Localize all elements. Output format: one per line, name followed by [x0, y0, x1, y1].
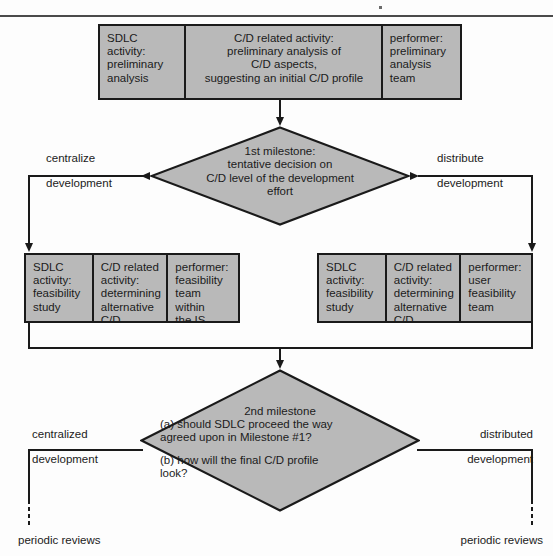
branch-drop-left-2: [28, 449, 30, 500]
cell-cd-activity-preliminary: C/D related activity: preliminary analys…: [184, 26, 381, 98]
cell-performer-preliminary: performer: preliminary analysis team: [381, 26, 460, 98]
process-row-feasibility-distributed: SDLC activity: feasibility study C/D rel…: [317, 253, 533, 323]
label-development-right-1: development: [437, 177, 503, 190]
cell-sdlc-activity-feasibility-left: SDLC activity: feasibility study: [26, 255, 92, 321]
dashed-continuation-right: [531, 500, 533, 527]
cell-sdlc-activity-feasibility-right: SDLC activity: feasibility study: [319, 255, 385, 321]
decision-milestone-1: 1st milestone: tentative decision on C/D…: [150, 126, 410, 226]
label-centralized-2: centralized: [32, 428, 88, 441]
milestone-2-question-a: (a) should SDLC proceed the way agreed u…: [140, 418, 420, 445]
merge-to-milestone2: [279, 347, 281, 361]
branch-line-right-1: [418, 175, 533, 177]
label-centralize-1: centralize: [46, 152, 95, 165]
milestone-1-text: 1st milestone: tentative decision on C/D…: [150, 145, 410, 199]
milestone-2-heading: 2nd milestone: [140, 405, 420, 418]
cell-cd-activity-feasibility-left: C/D related activity: determining altern…: [92, 255, 167, 321]
label-distributed-2: distributed: [413, 428, 533, 441]
label-development-right-2: development: [413, 453, 533, 466]
outcome-left-periodic-reviews: periodic reviews: [18, 534, 100, 547]
arrowhead-into-milestone2: [276, 360, 284, 369]
branch-line-left-1: [28, 175, 150, 177]
process-row-feasibility-centralized: SDLC activity: feasibility study C/D rel…: [24, 253, 240, 323]
arrowhead-into-left-feasibility: [25, 243, 33, 252]
branch-line-left-2: [28, 449, 143, 451]
cell-cd-activity-feasibility-right: C/D related activity: determining altern…: [385, 255, 460, 321]
merge-drop-left: [28, 323, 30, 349]
milestone-2-question-b: (b) how will the final C/D profile look?: [140, 454, 420, 481]
decision-milestone-2: 2nd milestone (a) should SDLC proceed th…: [140, 369, 420, 512]
process-row-preliminary-analysis: SDLC activity: preliminary analysis C/D …: [98, 24, 462, 100]
label-distribute-1: distribute: [437, 152, 484, 165]
outcome-right-periodic-reviews: periodic reviews: [423, 534, 543, 547]
top-divider-rule: [0, 15, 553, 17]
page-speck-mark: [379, 6, 382, 9]
branch-drop-right-2: [531, 449, 533, 500]
label-development-left-1: development: [46, 177, 112, 190]
arrowhead-into-right-feasibility: [528, 243, 536, 252]
flowchart-canvas: SDLC activity: preliminary analysis C/D …: [0, 0, 553, 556]
branch-drop-right-1: [531, 175, 533, 245]
branch-line-right-2: [417, 449, 533, 451]
merge-drop-right: [531, 323, 533, 349]
cell-sdlc-activity-preliminary: SDLC activity: preliminary analysis: [100, 26, 184, 98]
dashed-continuation-left: [28, 500, 30, 527]
branch-drop-left-1: [28, 175, 30, 245]
cell-performer-feasibility-left: performer: feasibility team within the I…: [166, 255, 238, 321]
connector-top-to-milestone1: [279, 100, 281, 117]
arrowhead-into-milestone1: [276, 117, 284, 126]
cell-performer-feasibility-right: performer: user feasibility team: [459, 255, 531, 321]
label-development-left-2: development: [32, 453, 98, 466]
